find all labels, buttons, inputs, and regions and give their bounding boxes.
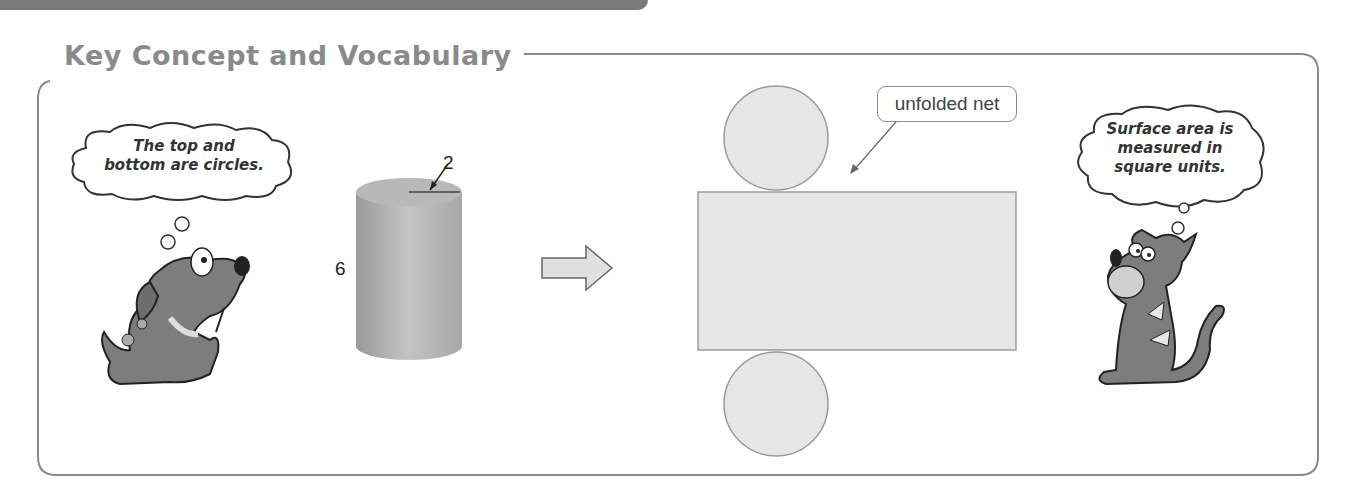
unfolded-net-callout: unfolded net [877,86,1017,122]
cat-icon [1086,220,1236,392]
top-banner [0,0,648,10]
right-arrow-icon [540,244,616,294]
net-bottom-circle [724,352,828,456]
cat-thought-text: Surface area is measured in square units… [1082,120,1258,177]
unfolded-net [690,82,1030,462]
net-rectangle [698,192,1016,350]
cylinder-figure [340,150,480,390]
dog-thought-text: The top and bottom are circles. [84,137,284,175]
net-top-circle [724,86,828,190]
radius-label: 2 [443,152,454,174]
dog-icon [90,212,260,392]
height-label: 6 [335,258,346,280]
section-heading: Key Concept and Vocabulary [58,38,520,74]
